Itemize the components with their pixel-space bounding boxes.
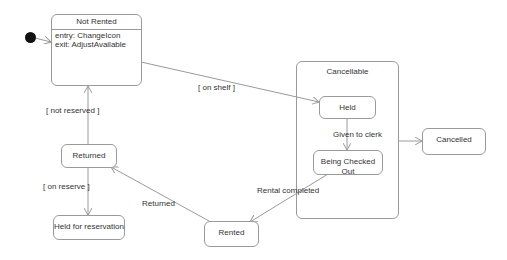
state-name: Rented [205,222,258,238]
event-rental-completed: Rental completed [257,186,319,195]
exit-action: exit: AdjustAvailable [55,40,138,49]
state-cancelled[interactable]: Cancelled [422,128,486,155]
initial-state-dot [25,32,36,43]
state-returned[interactable]: Returned [61,144,117,168]
state-diagram: Not Rented entry: ChangeIcon exit: Adjus… [0,0,507,260]
returned-transition [111,167,209,221]
state-name: Held for reservation [54,216,124,232]
state-being-checked-out[interactable]: Being Checked Out [313,150,383,175]
state-name: Returned [62,145,116,161]
state-held[interactable]: Held [319,96,376,119]
event-returned: Returned [142,199,175,208]
on-shelf-transition [141,62,319,102]
event-given-to-clerk: Given to clerk [333,130,382,139]
state-name: Cancelled [423,129,485,145]
state-name: Cancellable [297,62,398,76]
state-held-for-reservation[interactable]: Held for reservation [53,215,125,240]
guard-on-shelf: [ on shelf ] [198,83,235,92]
state-name: Not Rented [52,15,141,30]
state-name: Held [320,97,375,113]
state-name: Being Checked Out [314,151,382,177]
state-rented[interactable]: Rented [204,221,259,247]
initial-transition [35,38,51,42]
entry-action: entry: ChangeIcon [55,31,138,40]
guard-on-reserve: [ on reserve ] [43,182,90,191]
state-not-rented[interactable]: Not Rented entry: ChangeIcon exit: Adjus… [51,14,142,86]
state-cancellable[interactable]: Cancellable [296,61,399,219]
guard-not-reserved: [ not reserved ] [46,106,99,115]
